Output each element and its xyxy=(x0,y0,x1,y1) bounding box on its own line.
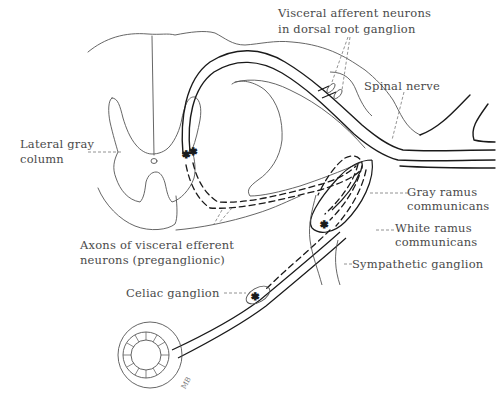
spinal-nerve-lower xyxy=(400,166,495,168)
leader-axons-b xyxy=(218,208,232,224)
dorsal-inner xyxy=(235,80,365,148)
ventral-cord xyxy=(98,188,177,230)
sympathetic-ganglion-neuron: ✱ xyxy=(320,219,328,230)
central-canal xyxy=(151,159,157,164)
leader-visceral-afferent-b xyxy=(342,37,350,90)
label-celiac-ganglion: Celiac ganglion xyxy=(126,286,220,300)
leader-axons-a xyxy=(214,210,222,224)
afferent-fiber-inner xyxy=(189,62,495,161)
lateral-horn-neuron-2: ✱ xyxy=(189,146,197,157)
spinal-nerve-branch-top xyxy=(420,95,470,135)
label-gray-ramus-2: communicans xyxy=(407,199,489,213)
ventral-cord-right xyxy=(176,196,300,230)
leader-visceral-afferent-a xyxy=(332,37,348,82)
viscus-lumen xyxy=(131,340,161,370)
label-visceral-afferent-1: Visceral afferent neurons xyxy=(278,6,431,20)
label-lateral-gray-1: Lateral gray xyxy=(20,137,94,151)
label-white-ramus-2: communicans xyxy=(395,235,477,249)
spinal-nerve-branch-right xyxy=(473,104,495,142)
label-sympathetic-ganglion: Sympathetic ganglion xyxy=(352,257,483,271)
efferent-fiber-inner xyxy=(193,163,356,202)
midline xyxy=(152,36,154,155)
label-spinal-nerve: Spinal nerve xyxy=(364,79,440,93)
label-gray-ramus-1: Gray ramus xyxy=(407,185,477,199)
label-axons-2: neurons (preganglionic) xyxy=(80,253,225,267)
ramus-loop-inner xyxy=(332,172,360,210)
white-ramus-dash-2 xyxy=(336,170,366,226)
diagram-canvas: ✱ ✱ ✱ ✱ xyxy=(0,0,503,396)
label-lateral-gray-2: column xyxy=(20,152,64,166)
sympathetic-trunk-right xyxy=(336,240,340,285)
ganglion-cell-2 xyxy=(333,88,344,100)
celiac-ganglion-neuron: ✱ xyxy=(251,291,259,302)
label-white-ramus-1: White ramus xyxy=(395,221,472,235)
label-axons-1: Axons of visceral efferent xyxy=(80,238,234,252)
label-visceral-afferent-2: in dorsal root ganglion xyxy=(278,22,416,36)
leader-spinal-nerve xyxy=(392,92,404,140)
dorsal-loop xyxy=(232,81,362,196)
afferent-fiber-outer xyxy=(182,51,495,154)
